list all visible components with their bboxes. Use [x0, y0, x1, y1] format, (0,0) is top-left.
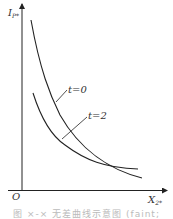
curve-t2	[33, 93, 138, 169]
origin-label: O	[12, 191, 20, 202]
label-t2: t=2	[88, 110, 107, 121]
diagram-canvas: t=0 t=2 IP* X2* O	[0, 0, 173, 219]
curve-t0	[31, 20, 142, 178]
leader-t0	[56, 90, 67, 102]
y-axis-label: IP*	[7, 7, 19, 19]
label-t0: t=0	[68, 84, 87, 95]
x-axis-label: X2*	[147, 194, 162, 206]
figure-caption: 图 ×-× 无差曲线示意图 (faint; partly illegible)	[0, 207, 173, 219]
